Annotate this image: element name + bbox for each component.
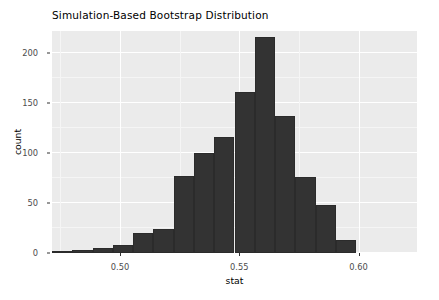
- y-axis: 050100150200: [0, 0, 50, 300]
- x-tick-mark: [239, 253, 240, 256]
- gridline-major-horizontal: [52, 52, 417, 53]
- gridline-minor-horizontal: [52, 77, 417, 78]
- histogram-bar: [275, 116, 295, 253]
- histogram-bar: [153, 229, 173, 253]
- page-title: Simulation-Based Bootstrap Distribution: [52, 9, 269, 21]
- x-axis-title: stat: [52, 275, 417, 286]
- histogram-bar: [93, 248, 113, 253]
- y-tick-label: 150: [22, 98, 38, 108]
- histogram-bar: [52, 251, 72, 253]
- x-tick-label: 0.60: [349, 262, 367, 272]
- x-tick-mark: [359, 253, 360, 256]
- y-tick-mark: [47, 53, 50, 54]
- y-tick-mark: [47, 103, 50, 104]
- gridline-major-vertical: [120, 31, 121, 253]
- x-tick-label: 0.50: [111, 262, 129, 272]
- y-axis-title: count: [12, 129, 23, 155]
- histogram-bar: [255, 37, 275, 253]
- histogram-bar: [316, 205, 336, 253]
- y-tick-label: 0: [33, 248, 38, 258]
- histogram-bar: [194, 153, 214, 253]
- y-tick-label: 50: [27, 198, 38, 208]
- histogram-bar: [113, 245, 133, 253]
- y-tick-mark: [47, 203, 50, 204]
- gridline-minor-vertical: [60, 31, 61, 253]
- x-tick-mark: [120, 253, 121, 256]
- histogram-bar: [174, 176, 194, 253]
- y-tick-label: 100: [22, 148, 38, 158]
- y-tick-mark: [47, 253, 50, 254]
- plot-panel: [52, 31, 417, 253]
- gridline-major-vertical: [359, 31, 360, 253]
- histogram-bar: [214, 137, 234, 253]
- histogram-bar: [133, 233, 153, 253]
- x-tick-label: 0.55: [230, 262, 248, 272]
- y-tick-mark: [47, 153, 50, 154]
- histogram-bar: [235, 92, 255, 253]
- histogram-bar: [72, 250, 92, 253]
- chart-root: Simulation-Based Bootstrap Distribution …: [0, 0, 439, 300]
- histogram-bar: [336, 240, 356, 253]
- y-tick-label: 200: [22, 48, 38, 58]
- histogram-bar: [295, 177, 315, 253]
